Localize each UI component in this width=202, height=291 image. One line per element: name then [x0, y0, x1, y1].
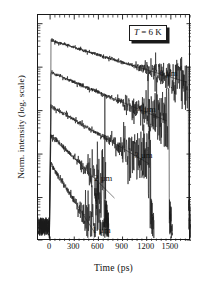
- temperature-annotation: T = 6 K: [129, 25, 167, 41]
- temperature-value: = 6 K: [139, 27, 162, 37]
- fit-line: [52, 167, 95, 234]
- curve-label-4m: 4 µm: [138, 104, 156, 114]
- x-tick-label: 1500: [153, 242, 187, 251]
- plot-frame: [37, 14, 190, 240]
- x-axis-title: Time (ps): [37, 262, 190, 273]
- y-axis-title: Norm. intensity (log. scale): [14, 14, 28, 240]
- curve-label-1m: 1 µm: [93, 225, 111, 235]
- figure-panel: Norm. intensity (log. scale) Time (ps) 0…: [0, 0, 202, 291]
- curve-label-6m: 6 µm: [159, 68, 177, 78]
- curve-label-3m: 3 µm: [134, 150, 152, 160]
- fit-line: [55, 74, 167, 121]
- curve-label-2m: 2 µm: [94, 173, 112, 183]
- plot-canvas: [38, 15, 191, 241]
